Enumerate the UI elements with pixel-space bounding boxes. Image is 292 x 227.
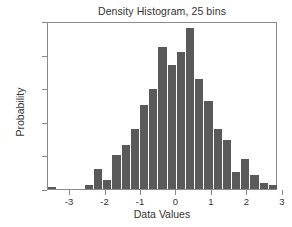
x-tick-mark — [140, 190, 141, 195]
x-axis: -3-2-10123 — [0, 0, 292, 227]
x-tick-mark — [246, 190, 247, 195]
x-axis-label: Data Values — [47, 208, 277, 220]
x-tick-label: -1 — [125, 196, 155, 207]
x-tick-mark — [282, 190, 283, 195]
x-tick-mark — [175, 190, 176, 195]
x-tick-mark — [69, 190, 70, 195]
x-tick-mark — [105, 190, 106, 195]
x-tick-label: 2 — [231, 196, 261, 207]
x-tick-label: -2 — [90, 196, 120, 207]
histogram-figure: Density Histogram, 25 bins 0.00.10.20.30… — [0, 0, 292, 227]
x-tick-label: 1 — [196, 196, 226, 207]
x-tick-mark — [211, 190, 212, 195]
x-tick-label: 3 — [267, 196, 292, 207]
x-tick-label: -3 — [54, 196, 84, 207]
x-tick-label: 0 — [160, 196, 190, 207]
